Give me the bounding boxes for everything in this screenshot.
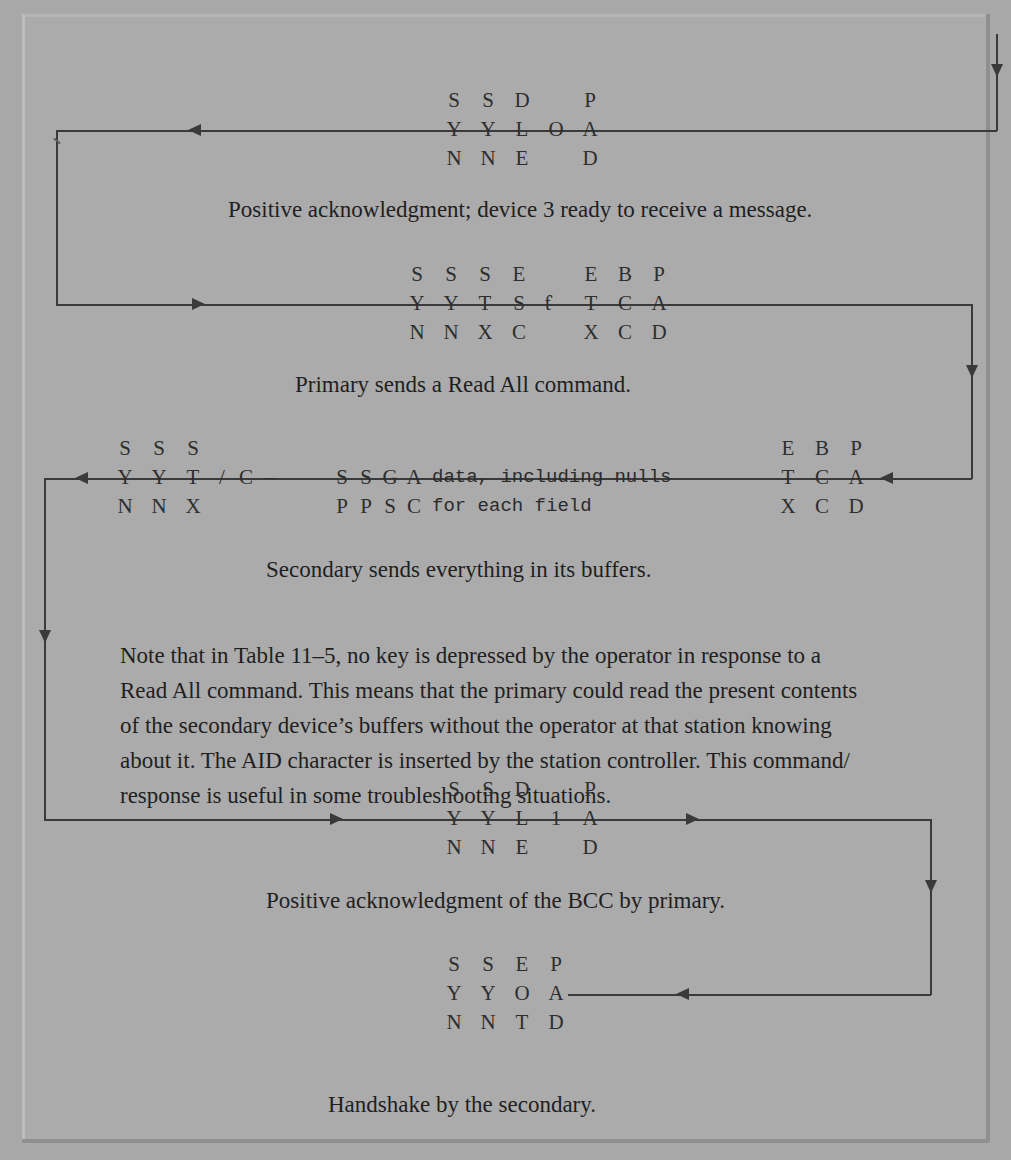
note-line: about it. The AID character is inserted … [120,743,900,778]
char-group-zero: O [539,86,573,173]
char-group-one: 1 [539,775,573,862]
char-group-slash: / [210,434,234,521]
char-top: E [513,260,526,289]
char-bot: E [516,833,529,862]
char-mid: Y [151,463,166,492]
flow-arrowhead-row4-right-2 [686,813,699,825]
char-top: P [653,260,665,289]
char-bot: X [185,492,200,521]
char-bot: N [480,833,495,862]
char-group-dash: – [258,434,282,521]
char-mid: T [479,289,492,318]
flow-line-right-vertical-2 [971,304,973,479]
frame-stack-block-1: S Y N S Y N D L E O P A D [437,86,607,173]
char-group-dle: D L E [505,86,539,173]
char-bot: X [780,492,795,521]
char-top: B [618,260,632,289]
flow-arrowhead-row1-left [188,124,201,136]
note-line: Note that in Table 11–5, no key is depre… [120,638,900,673]
char-group-syn-2: S Y N [142,434,176,521]
flow-arrowhead-row4-right [330,813,343,825]
char-mid: A [651,289,666,318]
scanned-page: S Y N S Y N D L E O P A D Positive ackno… [0,0,1011,1160]
payload-line-2: for each field [432,492,592,521]
caption-block-2: Primary sends a Read All command. [295,372,631,398]
char-mid: / [219,463,225,492]
char-group-etx: E T X [771,434,805,521]
char-bot: P [360,492,372,521]
char-top: S [448,775,460,804]
char-group-syn-1: S Y N [400,260,434,347]
char-bot: T [516,1008,529,1037]
caption-block-3: Secondary sends everything in its buffer… [266,557,651,583]
char-top: S [482,775,494,804]
char-top: S [119,434,131,463]
char-top: A [406,463,421,492]
char-bot: D [651,318,666,347]
char-mid: Y [446,804,461,833]
char-top: D [514,86,529,115]
char-group-sp-1: S P [330,463,354,521]
char-bot: D [582,833,597,862]
char-mid: A [582,804,597,833]
char-mid: A [582,115,597,144]
char-bot: N [446,144,461,173]
char-top: S [153,434,165,463]
char-bot: P [336,492,348,521]
char-group-syn-2: S Y N [471,950,505,1037]
char-group-syn-2: S Y N [434,260,468,347]
char-mid: 1 [551,804,562,833]
char-group-read-all-code: ƭ [536,260,560,347]
char-bot: N [446,833,461,862]
char-mid: C [239,463,253,492]
char-top: S [479,260,491,289]
char-top: S [336,463,348,492]
char-top: S [187,434,199,463]
char-top: S [482,86,494,115]
note-line: Read All command. This means that the pr… [120,673,900,708]
page-edge-left [22,14,25,1142]
char-mid: S [513,289,525,318]
char-mid: Y [446,115,461,144]
char-top: D [514,775,529,804]
char-group-eot: E O T [505,950,539,1037]
char-top: P [850,434,862,463]
char-top: G [382,463,397,492]
char-mid: Y [409,289,424,318]
char-group-pad: P A D [573,775,607,862]
char-top: S [411,260,423,289]
char-bot: C [512,318,526,347]
flow-arrowhead-row3-left-inner [880,472,893,484]
char-top: B [815,434,829,463]
flow-line-left-vertical-1 [56,130,58,305]
char-group-c: C [234,434,258,521]
flow-arrowhead-top-right-down [991,64,1003,77]
char-mid: C [815,463,829,492]
caption-block-1: Positive acknowledgment; device 3 ready … [228,197,812,223]
char-mid: T [187,463,200,492]
flow-arrowhead-row5-left [676,988,689,1000]
char-top: S [448,86,460,115]
char-bot: D [548,1008,563,1037]
flow-line-right-vertical-4 [930,819,932,995]
flow-line-row5-horizontal [568,994,931,996]
char-mid: T [782,463,795,492]
char-bot: E [516,144,529,173]
char-bot: X [583,318,598,347]
char-mid: Y [446,979,461,1008]
char-group-bcc: B C C [805,434,839,521]
page-edge-top [22,14,989,17]
char-top: S [448,950,460,979]
char-group-pad: P A D [839,434,873,521]
char-group-syn-1: S Y N [437,775,471,862]
char-top: P [550,950,562,979]
char-group-syn-2: S Y N [471,86,505,173]
frame-stack-block-4: S Y N S Y N D L E 1 P A D [437,775,607,862]
char-mid: L [516,804,529,833]
char-bot: N [480,1008,495,1037]
flow-line-top-right-vertical [996,34,998,131]
char-group-etx: E T X [574,260,608,347]
flow-arrowhead-row2-down [966,365,978,378]
char-group-pad: P A D [642,260,676,347]
char-top: S [445,260,457,289]
